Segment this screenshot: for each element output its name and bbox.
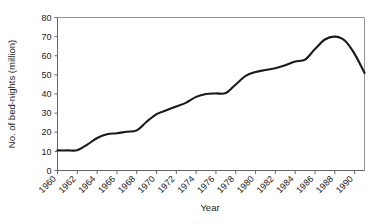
x-tick-label: 1962 xyxy=(56,174,77,195)
chart-canvas: 01020304050607080 1960196219641966196819… xyxy=(0,0,380,224)
x-axis: 1960196219641966196819701972197419761978… xyxy=(37,171,365,196)
x-tick-label: 1978 xyxy=(215,174,236,195)
y-tick-label: 50 xyxy=(41,70,51,80)
x-tick-label: 1970 xyxy=(136,174,157,195)
x-tick-label: 1980 xyxy=(235,174,256,195)
y-tick-label: 20 xyxy=(41,127,51,137)
y-tick-label: 10 xyxy=(41,147,51,157)
x-tick-label: 1974 xyxy=(175,174,196,195)
y-tick-label: 70 xyxy=(41,32,51,42)
x-tick-label: 1982 xyxy=(255,174,276,195)
x-tick-label: 1988 xyxy=(314,174,335,195)
y-tick-label: 40 xyxy=(41,89,51,99)
x-tick-label: 1986 xyxy=(294,174,315,195)
x-tick-label: 1972 xyxy=(156,174,177,195)
x-tick-label: 1990 xyxy=(334,174,355,195)
y-tick-label: 30 xyxy=(41,108,51,118)
x-axis-tick-labels: 1960196219641966196819701972197419761978… xyxy=(37,174,355,195)
x-tick-label: 1964 xyxy=(76,174,97,195)
y-axis-tick-labels: 01020304050607080 xyxy=(41,13,51,176)
x-axis-ticks xyxy=(58,171,355,175)
y-tick-label: 60 xyxy=(41,51,51,61)
x-axis-title: Year xyxy=(200,202,219,213)
x-tick-label: 1984 xyxy=(274,174,295,195)
y-tick-label: 80 xyxy=(41,13,51,23)
x-tick-label: 1976 xyxy=(195,174,216,195)
y-axis: 01020304050607080 xyxy=(41,13,57,176)
x-tick-label: 1966 xyxy=(96,174,117,195)
data-series-line xyxy=(58,37,365,151)
y-axis-title: No. of bed-nights (million) xyxy=(6,40,17,148)
x-tick-label: 1968 xyxy=(116,174,137,195)
x-tick-label: 1960 xyxy=(37,174,58,195)
bed-nights-line-chart: 01020304050607080 1960196219641966196819… xyxy=(0,0,380,224)
